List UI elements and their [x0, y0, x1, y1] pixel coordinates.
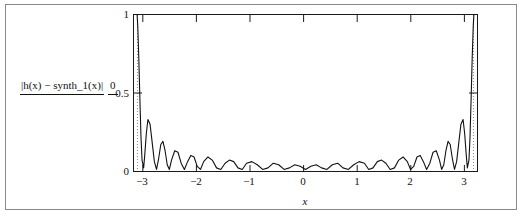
x-tick-label-neg3: −3 [136, 176, 148, 187]
x-tick-label-2: 2 [407, 176, 413, 187]
plot-area [133, 14, 478, 172]
y-tick-label-0p5: 0.5 [115, 88, 129, 99]
edge-gridlines [138, 15, 474, 171]
y-tick-label-0: 0 [124, 166, 130, 177]
y-tick-label-1: 1 [124, 9, 130, 20]
top-axis-ticks [143, 15, 465, 22]
plot-svg [134, 15, 477, 171]
x-axis-title: x [303, 196, 308, 207]
x-tick-label-neg2: −2 [190, 176, 202, 187]
y-axis-tick-labels: 1 0.5 0 [0, 0, 133, 222]
x-tick-label-neg1: −1 [243, 176, 255, 187]
x-tick-label-1: 1 [354, 176, 360, 187]
chart-figure: |h(x) − synth_1(x)| 0 1 0.5 0 [0, 0, 526, 222]
x-tick-label-0: 0 [300, 176, 306, 187]
x-tick-label-3: 3 [461, 176, 467, 187]
error-curve [137, 15, 474, 169]
